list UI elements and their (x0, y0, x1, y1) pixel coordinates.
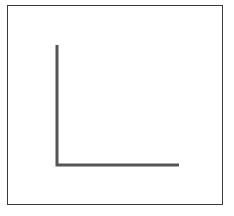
l-shape-path (57, 45, 179, 165)
l-shape-icon (0, 0, 234, 216)
diagram-canvas (0, 0, 234, 216)
